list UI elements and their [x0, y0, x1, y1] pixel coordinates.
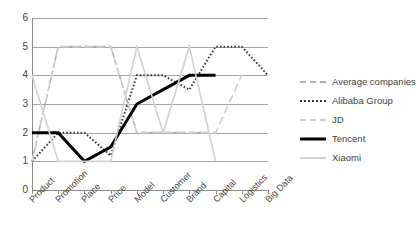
- legend-item[interactable]: JD: [300, 110, 412, 129]
- series-line: [32, 47, 216, 162]
- y-tick-label: 4: [6, 70, 28, 80]
- plot-area: [32, 18, 268, 190]
- legend-item-label: JD: [332, 115, 344, 125]
- y-tick-label: 1: [6, 156, 28, 166]
- legend-item-label: Alibaba Group: [332, 96, 393, 106]
- legend-item[interactable]: Xiaomi: [300, 148, 412, 167]
- legend-swatch-icon: [300, 134, 326, 144]
- legend-item-label: Xiaomi: [332, 153, 361, 163]
- legend-item[interactable]: Average companies: [300, 72, 412, 91]
- y-axis-labels: 0123456: [0, 0, 28, 249]
- legend-swatch-icon: [300, 77, 326, 87]
- legend: Average companiesAlibaba GroupJDTencentX…: [300, 72, 412, 167]
- legend-swatch-icon: [300, 96, 326, 106]
- y-tick-label: 6: [6, 13, 28, 23]
- legend-item[interactable]: Tencent: [300, 129, 412, 148]
- y-tick-label: 3: [6, 99, 28, 109]
- legend-item[interactable]: Alibaba Group: [300, 91, 412, 110]
- y-tick-label: 5: [6, 42, 28, 52]
- legend-item-label: Average companies: [332, 77, 416, 87]
- series-layer: [32, 18, 268, 190]
- legend-swatch-icon: [300, 115, 326, 125]
- legend-item-label: Tencent: [332, 134, 365, 144]
- y-tick-label: 0: [6, 185, 28, 195]
- y-tick-label: 2: [6, 128, 28, 138]
- legend-swatch-icon: [300, 153, 326, 163]
